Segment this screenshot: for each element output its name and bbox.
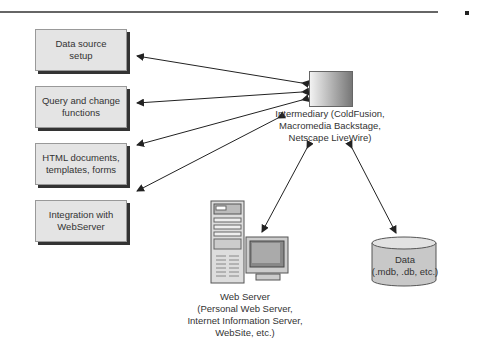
box-html-documents: HTML documents,templates, forms <box>35 143 127 185</box>
intermediary-icon <box>309 71 353 107</box>
web-server-computer-icon <box>210 200 290 290</box>
box-query-change-functions: Query and changefunctions <box>35 86 127 128</box>
intermediary-label: Intermediary (ColdFusion, Macromedia Bac… <box>270 108 390 144</box>
box-data-source-setup: Data sourcesetup <box>35 29 127 71</box>
box-integration-webserver: Integration withWebServer <box>35 200 127 242</box>
data-store-label: Data (.mdb, .db, etc.) <box>370 254 440 278</box>
web-server-label: Web Server (Personal Web Server, Interne… <box>180 291 310 339</box>
